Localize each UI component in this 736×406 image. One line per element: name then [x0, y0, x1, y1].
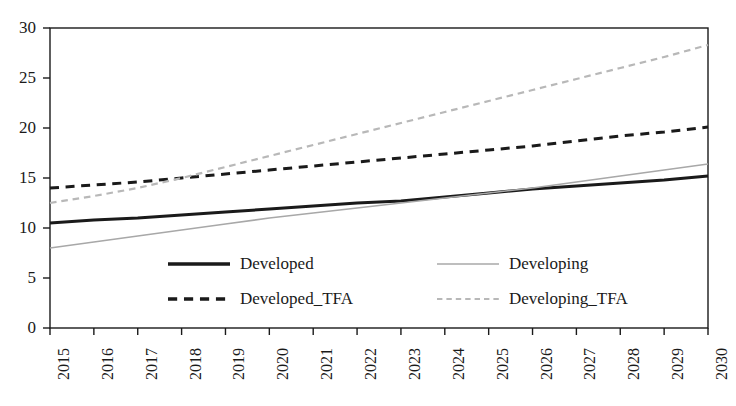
legend-label-developing-tfa: Developing_TFA	[509, 290, 628, 307]
series-line-developed	[50, 176, 708, 223]
y-tick-label: 20	[2, 119, 36, 136]
x-tick-label: 2029	[670, 348, 686, 380]
x-tick-label: 2023	[407, 348, 423, 380]
plot-canvas	[0, 0, 736, 406]
x-tick-label: 2024	[451, 348, 467, 380]
x-tick-label: 2016	[100, 348, 116, 380]
x-tick-label: 2015	[56, 348, 72, 380]
x-tick-label: 2028	[626, 348, 642, 380]
legend-label-developed: Developed	[240, 255, 314, 272]
x-tick-label: 2030	[714, 348, 730, 380]
legend-label-developing: Developing	[509, 255, 588, 272]
line-chart: 051015202530 201520162017201820192020202…	[0, 0, 736, 406]
y-tick-label: 25	[2, 69, 36, 86]
x-tick-label: 2022	[363, 348, 379, 380]
y-tick-label: 5	[2, 269, 36, 286]
series-line-developed-tfa	[50, 127, 708, 188]
x-tick-label: 2027	[582, 348, 598, 380]
x-tick-label: 2018	[188, 348, 204, 380]
x-tick-label: 2020	[275, 348, 291, 380]
y-tick-label: 15	[2, 169, 36, 186]
x-tick-label: 2025	[495, 348, 511, 380]
y-tick-label: 0	[2, 319, 36, 336]
x-tick-label: 2026	[539, 348, 555, 380]
x-tick-label: 2021	[319, 348, 335, 380]
x-tick-label: 2017	[144, 348, 160, 380]
series-line-developing-tfa	[50, 45, 708, 203]
legend-label-developed-tfa: Developed_TFA	[240, 290, 353, 307]
x-tick-label: 2019	[231, 348, 247, 380]
y-tick-label: 30	[2, 19, 36, 36]
y-tick-label: 10	[2, 219, 36, 236]
data-series-group	[50, 45, 708, 248]
series-line-developing	[50, 164, 708, 248]
